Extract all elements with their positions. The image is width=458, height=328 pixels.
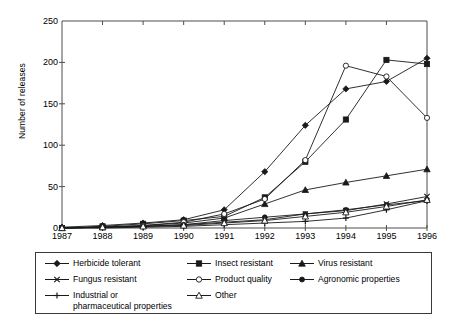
legend-item[interactable]: Product quality: [186, 274, 272, 286]
data-point-plus: [54, 292, 60, 298]
series-line: [62, 66, 427, 228]
data-point-open-circle: [343, 63, 348, 68]
legend-label: Product quality: [215, 274, 272, 285]
legend-item[interactable]: Insect resistant: [186, 258, 273, 270]
legend-marker-filled-triangle: [289, 258, 315, 269]
data-point-open-circle: [196, 277, 201, 282]
series-line: [62, 60, 427, 228]
legend-item[interactable]: Industrial or pharmaceutical properties: [44, 290, 172, 311]
legend-item[interactable]: Herbicide tolerant: [44, 258, 140, 270]
legend-swatch: [186, 291, 212, 302]
legend-swatch: [186, 275, 212, 286]
data-point-plus: [343, 215, 349, 221]
data-point-filled-triangle: [424, 166, 430, 172]
legend-marker-filled-diamond: [44, 258, 70, 269]
legend-marker-plus: [44, 290, 70, 301]
data-point-filled-circle: [300, 277, 305, 282]
legend-swatch: [289, 259, 315, 270]
legend-label: Fungus resistant: [73, 274, 137, 285]
data-point-filled-square: [196, 261, 201, 266]
data-point-filled-square: [343, 117, 348, 122]
legend-marker-cross-x: [44, 274, 70, 285]
series-herbicide-tolerant: [59, 55, 430, 230]
legend-label: Herbicide tolerant: [73, 258, 140, 269]
legend-swatch: [289, 275, 315, 286]
legend-swatch: [44, 291, 70, 302]
data-point-open-circle: [303, 158, 308, 163]
legend-item[interactable]: Virus resistant: [289, 258, 372, 270]
data-point-filled-square: [424, 61, 429, 66]
data-point-filled-diamond: [424, 55, 430, 61]
legend-swatch: [186, 259, 212, 270]
series-line: [62, 201, 427, 228]
legend-label: Other: [215, 290, 237, 301]
legend-marker-open-triangle: [186, 290, 212, 301]
legend-marker-open-circle: [186, 274, 212, 285]
data-point-open-circle: [384, 74, 389, 79]
legend-swatch: [44, 275, 70, 286]
legend-marker-filled-circle: [289, 274, 315, 285]
legend-marker-filled-square: [186, 258, 212, 269]
legend-item[interactable]: Agronomic properties: [289, 274, 400, 286]
data-point-open-circle: [222, 211, 227, 216]
legend-item[interactable]: Other: [186, 290, 237, 302]
legend-label: Insect resistant: [215, 258, 273, 269]
data-point-open-circle: [424, 115, 429, 120]
legend-label: Agronomic properties: [318, 274, 400, 285]
data-point-filled-diamond: [54, 260, 60, 266]
series-product-quality: [59, 63, 429, 230]
data-point-open-circle: [262, 196, 267, 201]
chart-figure: Number of releases 050100150200250 19871…: [0, 0, 458, 328]
legend-item[interactable]: Fungus resistant: [44, 274, 137, 286]
series-line: [62, 58, 427, 227]
legend-label: Industrial or pharmaceutical properties: [73, 290, 172, 311]
data-point-filled-square: [384, 57, 389, 62]
chart-legend: Herbicide tolerantFungus resistantIndust…: [35, 252, 432, 314]
legend-swatch: [44, 259, 70, 270]
legend-label: Virus resistant: [318, 258, 372, 269]
